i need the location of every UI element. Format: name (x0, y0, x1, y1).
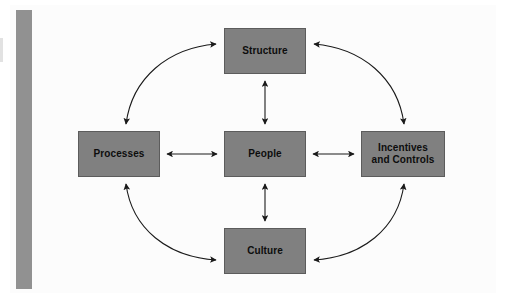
node-people-label: People (248, 148, 281, 160)
node-structure[interactable]: Structure (224, 28, 306, 74)
diagram-canvas: Structure Processes People Incentives an… (0, 0, 515, 301)
connector-culture-incentives (314, 184, 404, 260)
connector-processes-culture (126, 184, 216, 260)
node-culture[interactable]: Culture (224, 228, 306, 274)
figure-root: Structure Processes People Incentives an… (0, 0, 515, 301)
node-processes[interactable]: Processes (78, 131, 160, 177)
connector-processes-structure (126, 44, 216, 124)
node-incentives-and-controls[interactable]: Incentives and Controls (361, 131, 445, 177)
node-structure-label: Structure (242, 45, 287, 57)
node-incentives-and-controls-label: Incentives and Controls (372, 142, 435, 166)
node-people[interactable]: People (224, 131, 306, 177)
node-culture-label: Culture (247, 245, 283, 257)
connector-structure-incentives (314, 44, 404, 124)
node-processes-label: Processes (94, 148, 145, 160)
